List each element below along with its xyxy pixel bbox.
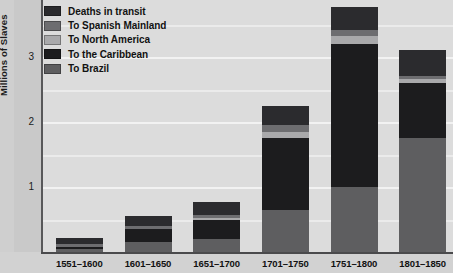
legend-item[interactable]: To North America bbox=[41, 34, 166, 46]
bar-segment[interactable] bbox=[331, 7, 378, 30]
legend-item[interactable]: To the Caribbean bbox=[41, 48, 166, 60]
chart-figure: 123 Millions of Slaves 1551–16001601–165… bbox=[0, 0, 453, 273]
chart-legend: Deaths in transitTo Spanish MainlandTo N… bbox=[41, 5, 166, 75]
y-axis-title: Millions of Slaves bbox=[0, 0, 9, 96]
legend-label: To Brazil bbox=[68, 63, 109, 74]
bar-segment[interactable] bbox=[331, 44, 378, 187]
legend-label: To North America bbox=[68, 34, 150, 45]
bar-segment[interactable] bbox=[262, 210, 309, 252]
bar-group[interactable] bbox=[262, 106, 309, 252]
x-axis: 1551–16001601–16501651–17001701–17501751… bbox=[41, 254, 453, 273]
bar-group[interactable] bbox=[56, 238, 103, 252]
bar-segment[interactable] bbox=[193, 202, 240, 215]
bar-segment[interactable] bbox=[399, 50, 446, 76]
bar-group[interactable] bbox=[399, 50, 446, 252]
bar-segment[interactable] bbox=[193, 220, 240, 240]
legend-label: To the Caribbean bbox=[68, 49, 148, 60]
x-tick-label: 1701–1750 bbox=[251, 258, 320, 269]
legend-label: Deaths in transit bbox=[68, 6, 146, 17]
bar-segment[interactable] bbox=[262, 138, 309, 210]
legend-item[interactable]: To Brazil bbox=[41, 63, 166, 75]
legend-swatch-icon bbox=[44, 6, 61, 16]
bar-segment[interactable] bbox=[125, 242, 172, 252]
x-tick-label: 1651–1700 bbox=[182, 258, 251, 269]
x-tick-label: 1801–1850 bbox=[388, 258, 453, 269]
y-tick-label: 2 bbox=[20, 116, 34, 127]
bar-group[interactable] bbox=[193, 202, 240, 252]
bar-group[interactable] bbox=[331, 7, 378, 252]
bar-group[interactable] bbox=[125, 216, 172, 252]
bar-segment[interactable] bbox=[399, 83, 446, 138]
legend-swatch-icon bbox=[44, 35, 61, 45]
bar-segment[interactable] bbox=[331, 187, 378, 252]
legend-item[interactable]: Deaths in transit bbox=[41, 5, 166, 17]
legend-item[interactable]: To Spanish Mainland bbox=[41, 19, 166, 31]
x-tick-label: 1551–1600 bbox=[45, 258, 114, 269]
x-tick-label: 1751–1800 bbox=[320, 258, 389, 269]
bar-segment[interactable] bbox=[262, 106, 309, 126]
bar-segment[interactable] bbox=[125, 216, 172, 226]
bar-segment[interactable] bbox=[399, 138, 446, 252]
legend-label: To Spanish Mainland bbox=[68, 20, 166, 31]
y-tick-label: 1 bbox=[20, 181, 34, 192]
bar-segment[interactable] bbox=[125, 229, 172, 242]
y-tick-label: 3 bbox=[20, 51, 34, 62]
bar-segment[interactable] bbox=[193, 239, 240, 252]
bar-segment[interactable] bbox=[331, 36, 378, 44]
legend-swatch-icon bbox=[44, 64, 61, 74]
x-tick-label: 1601–1650 bbox=[114, 258, 183, 269]
legend-swatch-icon bbox=[44, 49, 61, 59]
legend-swatch-icon bbox=[44, 21, 61, 31]
